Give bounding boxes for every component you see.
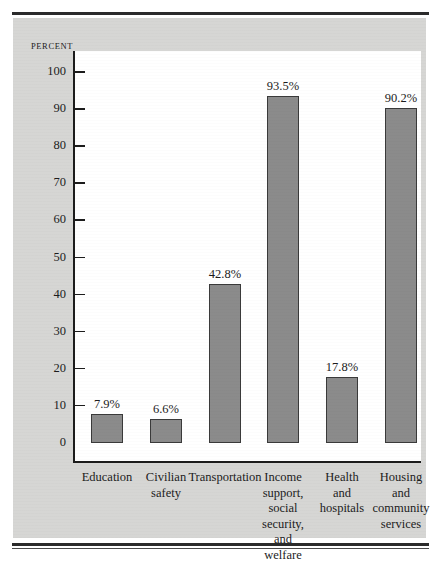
category-label-line: community [349,501,440,517]
y-tick-label: 50 [26,250,66,265]
y-tick-label: 70 [26,175,66,190]
bar [385,108,417,443]
y-tick-mark [74,145,85,147]
category-label-line: and [349,486,440,502]
y-tick-label: 20 [26,361,66,376]
y-tick-label: 40 [26,287,66,302]
bar-value-label: 7.9% [94,397,120,412]
y-tick-label: 0 [26,435,66,450]
category-label-line: Housing [349,470,440,486]
figure-panel: PERCENT 0102030405060708090100 7.9%6.6%4… [13,18,426,538]
bar [209,284,241,443]
bar-value-label: 93.5% [267,79,299,94]
y-tick-mark [74,257,85,259]
y-tick-label: 60 [26,212,66,227]
y-tick-mark [74,331,85,333]
y-tick-mark [74,108,85,110]
bar [267,96,299,443]
category-label-line: safety [114,486,218,502]
bar-value-label: 17.8% [326,360,358,375]
bar-value-label: 90.2% [385,91,417,106]
y-axis-title: PERCENT [31,41,73,51]
x-axis-line [73,461,421,463]
top-rule [12,12,429,15]
category-label-line: welfare [231,548,335,563]
bottom-rule-thick [12,543,429,546]
y-tick-label: 90 [26,101,66,116]
bottom-rule-thin [12,548,429,549]
bar [91,414,123,443]
y-tick-mark [74,182,85,184]
category-label-line: services [349,517,440,533]
bar [150,419,182,443]
plot-area [74,51,421,462]
y-tick-mark [74,405,85,407]
bar-value-label: 42.8% [209,267,241,282]
y-tick-mark [74,71,85,73]
category-label: Housingandcommunityservices [349,470,440,532]
bar-value-label: 6.6% [153,402,179,417]
y-tick-mark [74,294,85,296]
y-tick-mark [74,368,85,370]
bar [326,377,358,443]
y-tick-label: 80 [26,138,66,153]
y-tick-label: 10 [26,398,66,413]
y-tick-label: 100 [26,64,66,79]
y-tick-label: 30 [26,324,66,339]
y-tick-mark [74,219,85,221]
category-label-line: security, [231,517,335,533]
